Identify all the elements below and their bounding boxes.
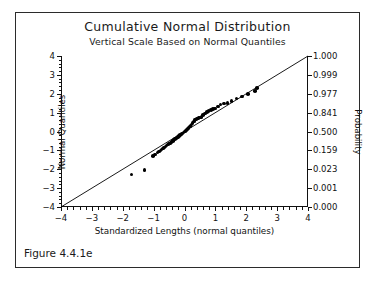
x-tick-minor (172, 207, 173, 210)
x-tick-label: −1 (147, 213, 160, 223)
x-tick-label: −4 (55, 213, 68, 223)
y-tick-label: −2 (42, 164, 55, 174)
y-tick-label: 1 (50, 108, 55, 118)
y2-tick-major (308, 113, 312, 114)
x-tick-minor (271, 207, 272, 210)
y2-tick-major (308, 94, 312, 95)
x-tick-minor (203, 207, 204, 210)
x-tick-minor (80, 207, 81, 210)
x-tick-major (185, 207, 186, 211)
x-tick-minor (141, 207, 142, 210)
x-tick-minor (160, 207, 161, 210)
figure-frame: Cumulative Normal Distribution Vertical … (15, 12, 360, 268)
data-point (222, 102, 226, 106)
x-tick-minor (86, 207, 87, 210)
x-tick-minor (302, 207, 303, 210)
y-tick-label: −3 (42, 183, 55, 193)
y-tick-label: 4 (50, 51, 55, 61)
y2-tick-label: 1.000 (313, 51, 337, 61)
y2-tick-major (308, 56, 312, 57)
x-tick-major (92, 207, 93, 211)
y-axis-right-label: Probability (353, 109, 363, 154)
x-tick-label: −2 (116, 213, 129, 223)
y-tick-label: 2 (50, 89, 55, 99)
data-point (240, 95, 244, 99)
chart-title: Cumulative Normal Distribution (16, 19, 359, 34)
x-tick-minor (265, 207, 266, 210)
x-tick-minor (289, 207, 290, 210)
y2-tick-label: 0.023 (313, 164, 337, 174)
x-tick-label: 0 (182, 213, 187, 223)
x-tick-minor (147, 207, 148, 210)
y2-tick-label: 0.000 (313, 202, 337, 212)
y2-tick-label: 0.500 (313, 127, 337, 137)
plot-area: −4−3−2−101234 0.0000.0010.0230.1590.5000… (61, 56, 308, 207)
y2-tick-major (308, 75, 312, 76)
x-tick-minor (259, 207, 260, 210)
y2-tick-label: 0.841 (313, 108, 337, 118)
x-tick-minor (234, 207, 235, 210)
x-tick-minor (222, 207, 223, 210)
x-tick-minor (228, 207, 229, 210)
x-tick-label: 1 (213, 213, 218, 223)
x-tick-minor (110, 207, 111, 210)
y-tick-label: −1 (42, 145, 55, 155)
y2-tick-major (308, 188, 312, 189)
x-tick-minor (296, 207, 297, 210)
data-point (246, 92, 250, 96)
x-tick-minor (98, 207, 99, 210)
x-tick-label: 2 (244, 213, 249, 223)
y-tick-label: −4 (42, 202, 55, 212)
x-tick-minor (67, 207, 68, 210)
x-tick-minor (73, 207, 74, 210)
x-tick-minor (283, 207, 284, 210)
y2-tick-major (308, 169, 312, 170)
x-tick-minor (191, 207, 192, 210)
x-tick-major (246, 207, 247, 211)
y-axis-left-label: Normal Quantiles (57, 94, 67, 169)
x-tick-minor (117, 207, 118, 210)
x-axis-label: Standardized Lengths (normal quantiles) (95, 226, 275, 236)
data-point (143, 168, 147, 172)
x-tick-minor (197, 207, 198, 210)
x-tick-label: 3 (274, 213, 279, 223)
x-tick-minor (178, 207, 179, 210)
x-tick-minor (166, 207, 167, 210)
x-tick-major (308, 207, 309, 211)
data-point (230, 99, 234, 103)
y2-tick-label: 0.977 (313, 89, 337, 99)
x-tick-label: −3 (86, 213, 99, 223)
y2-tick-label: 0.159 (313, 145, 337, 155)
x-tick-minor (252, 207, 253, 210)
x-tick-minor (240, 207, 241, 210)
x-tick-minor (104, 207, 105, 210)
data-point (226, 101, 230, 105)
x-tick-minor (129, 207, 130, 210)
x-tick-major (123, 207, 124, 211)
x-tick-major (154, 207, 155, 211)
data-point (255, 86, 259, 90)
y2-tick-label: 0.999 (313, 70, 337, 80)
figure-caption: Figure 4.4.1e (24, 247, 93, 259)
y2-tick-major (308, 132, 312, 133)
y-tick-label: 0 (50, 127, 55, 137)
y-tick-label: 3 (50, 70, 55, 80)
x-tick-minor (135, 207, 136, 210)
x-tick-minor (209, 207, 210, 210)
x-tick-major (215, 207, 216, 211)
y2-tick-label: 0.001 (313, 183, 337, 193)
x-tick-major (61, 207, 62, 211)
chart-subtitle: Vertical Scale Based on Normal Quantiles (16, 36, 359, 47)
x-tick-major (277, 207, 278, 211)
y2-tick-major (308, 150, 312, 151)
x-tick-label: 4 (305, 213, 310, 223)
